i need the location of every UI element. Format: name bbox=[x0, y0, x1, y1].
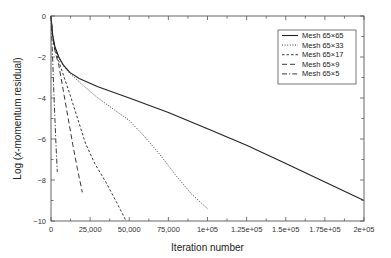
legend-label: Mesh 65×9 bbox=[302, 60, 339, 69]
y-tick-label: −8 bbox=[37, 176, 46, 185]
y-tick-label: −10 bbox=[33, 217, 46, 226]
x-tick-label: 50,000 bbox=[118, 225, 141, 234]
x-tick-label: 1.75e+05 bbox=[309, 225, 341, 234]
y-tick-label: −4 bbox=[37, 94, 46, 103]
x-tick-label: 1.25e+05 bbox=[231, 225, 263, 234]
y-tick-label: 0 bbox=[42, 12, 46, 21]
series-line-2 bbox=[51, 16, 126, 221]
convergence-chart: 025,00050,00075,0001e+051.25e+051.5e+051… bbox=[0, 0, 391, 258]
y-tick-label: −6 bbox=[37, 135, 46, 144]
legend-label: Mesh 65×33 bbox=[302, 41, 344, 50]
y-axis-title-suffix: -momentum residual) bbox=[12, 57, 23, 151]
x-tick-label: 2e+05 bbox=[353, 225, 374, 234]
x-tick-label: 1e+05 bbox=[197, 225, 218, 234]
legend-label: Mesh 65×17 bbox=[302, 50, 344, 59]
legend-label: Mesh 65×65 bbox=[302, 31, 344, 40]
x-tick-label: 0 bbox=[49, 225, 53, 234]
legend-label: Mesh 65×5 bbox=[302, 69, 339, 78]
y-axis-title-prefix: Log ( bbox=[12, 156, 23, 179]
y-tick-label: −2 bbox=[37, 53, 46, 62]
series-line-3 bbox=[51, 16, 82, 192]
y-axis-title: Log (x-momentum residual) bbox=[12, 57, 23, 179]
x-tick-label: 1.5e+05 bbox=[272, 225, 299, 234]
series-line-4 bbox=[51, 16, 57, 172]
legend: Mesh 65×65Mesh 65×33Mesh 65×17Mesh 65×9M… bbox=[278, 30, 356, 84]
x-axis-title: Iteration number bbox=[171, 242, 244, 253]
series-line-1 bbox=[51, 16, 208, 209]
x-tick-label: 75,000 bbox=[157, 225, 180, 234]
x-tick-label: 25,000 bbox=[79, 225, 102, 234]
